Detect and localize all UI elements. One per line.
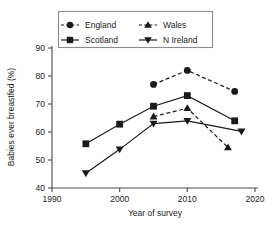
marker-square <box>231 117 238 124</box>
series-england <box>150 67 238 95</box>
series-scotland <box>82 92 238 147</box>
legend-label: England <box>85 20 116 30</box>
marker-square <box>184 92 191 99</box>
y-tick-label: 50 <box>36 155 46 165</box>
marker-square <box>67 37 73 43</box>
series-line-wales <box>154 108 228 147</box>
marker-circle <box>184 67 191 74</box>
y-tick-label: 80 <box>36 71 46 81</box>
marker-circle <box>231 88 238 95</box>
series-line-n-ireland <box>86 121 242 173</box>
legend-label: Wales <box>163 20 186 30</box>
x-tick-label: 2010 <box>178 194 197 204</box>
marker-square <box>116 121 123 128</box>
x-tick-label: 1990 <box>43 194 62 204</box>
marker-triangle-down <box>237 129 245 136</box>
y-axis-title: Babies ever breastfed (%) <box>6 68 16 166</box>
legend-label: Scotland <box>85 35 118 45</box>
marker-circle <box>150 81 157 88</box>
y-tick-label: 60 <box>36 127 46 137</box>
marker-circle <box>67 22 73 28</box>
legend-label: N Ireland <box>163 35 198 45</box>
data-series <box>82 67 246 177</box>
marker-triangle-down <box>116 146 124 153</box>
marker-triangle-up <box>183 104 191 111</box>
series-line-england <box>154 70 235 91</box>
y-axis-ticks: 405060708090 <box>36 43 52 193</box>
marker-square <box>150 103 157 110</box>
breastfeeding-line-chart: 405060708090 1990200020102020 Babies eve… <box>0 0 276 231</box>
marker-triangle-down <box>82 170 90 177</box>
marker-triangle-down <box>150 121 158 128</box>
y-tick-label: 90 <box>36 43 46 53</box>
x-axis-ticks: 1990200020102020 <box>43 188 265 204</box>
chart-legend: EnglandWalesScotlandN Ireland <box>59 12 213 48</box>
chart-container: 405060708090 1990200020102020 Babies eve… <box>0 0 276 231</box>
x-tick-label: 2020 <box>246 194 265 204</box>
series-n-ireland <box>82 118 246 177</box>
x-tick-label: 2000 <box>110 194 129 204</box>
series-line-scotland <box>86 96 235 144</box>
y-tick-label: 40 <box>36 183 46 193</box>
x-axis-title: Year of survey <box>128 208 183 218</box>
marker-square <box>82 140 89 147</box>
y-tick-label: 70 <box>36 99 46 109</box>
